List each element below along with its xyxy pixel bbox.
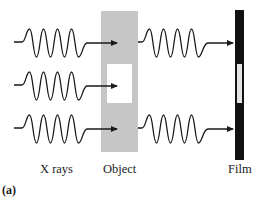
film-label: Film <box>228 163 252 176</box>
xrays-label: X rays <box>40 163 73 176</box>
xray-imaging-diagram: X rays Object Film (a) <box>0 0 265 198</box>
panel-label: (a) <box>2 184 16 196</box>
film-strip <box>235 10 244 160</box>
xray-wave-transmitted-3 <box>138 115 233 143</box>
object-transparent-window <box>107 64 132 103</box>
object-label: Object <box>103 163 136 176</box>
xray-wave-transmitted-1 <box>138 29 233 57</box>
object-block <box>101 11 138 152</box>
film-unexposed-region <box>237 64 242 103</box>
